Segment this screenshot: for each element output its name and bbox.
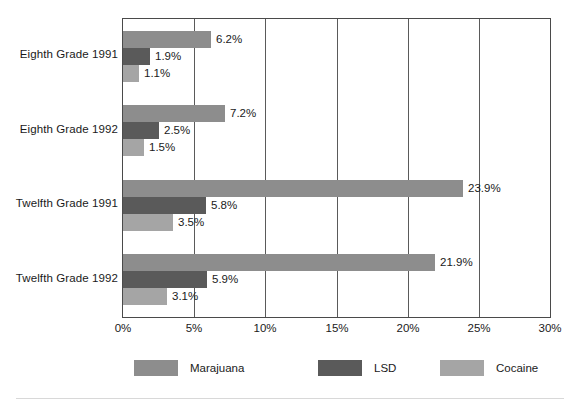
bar-lsd-eighth-grade-1992 <box>123 122 159 139</box>
bar-marajuana-twelfth-grade-1991 <box>123 180 463 197</box>
legend-swatch-cocaine <box>440 360 484 376</box>
bar-value-label: 23.9% <box>463 180 501 197</box>
footer-divider <box>16 398 564 399</box>
bar-marajuana-twelfth-grade-1992 <box>123 254 435 271</box>
x-tick-30: 30% <box>530 322 570 334</box>
legend-swatch-lsd <box>318 360 362 376</box>
x-axis-tick-labels: 0%5%10%15%20%25%30% <box>0 322 574 338</box>
x-tick-25: 25% <box>459 322 499 334</box>
legend-swatch-marajuana <box>134 360 178 376</box>
bar-cocaine-eighth-grade-1992 <box>123 139 144 156</box>
bar-cocaine-twelfth-grade-1992 <box>123 288 167 305</box>
category-label-eighth-grade-1992: Eighth Grade 1992 <box>3 123 118 135</box>
bar-value-label: 1.5% <box>144 139 175 156</box>
x-tick-15: 15% <box>317 322 357 334</box>
legend-label-marajuana: Marajuana <box>190 358 244 380</box>
bar-cocaine-twelfth-grade-1991 <box>123 214 173 231</box>
category-label-twelfth-grade-1992: Twelfth Grade 1992 <box>3 272 118 284</box>
legend-label-lsd: LSD <box>374 358 396 380</box>
bar-value-label: 1.1% <box>139 65 170 82</box>
bar-value-label: 21.9% <box>435 254 473 271</box>
bar-lsd-twelfth-grade-1992 <box>123 271 207 288</box>
legend-label-cocaine: Cocaine <box>496 358 538 380</box>
bar-value-label: 7.2% <box>225 105 256 122</box>
x-tick-0: 0% <box>103 322 143 334</box>
bar-value-label: 2.5% <box>159 122 190 139</box>
x-tick-5: 5% <box>174 322 214 334</box>
bar-value-label: 5.9% <box>207 271 238 288</box>
bar-value-label: 1.9% <box>150 48 181 65</box>
category-label-twelfth-grade-1991: Twelfth Grade 1991 <box>3 197 118 209</box>
bar-value-label: 3.5% <box>173 214 204 231</box>
x-tick-20: 20% <box>388 322 428 334</box>
category-axis-labels: Eighth Grade 1991Eighth Grade 1992Twelft… <box>0 18 118 318</box>
bar-lsd-twelfth-grade-1991 <box>123 197 206 214</box>
bar-value-label: 3.1% <box>167 288 198 305</box>
chart-legend: MarajuanaLSDCocaine <box>0 358 574 384</box>
bar-marajuana-eighth-grade-1992 <box>123 105 225 122</box>
bar-lsd-eighth-grade-1991 <box>123 48 150 65</box>
bar-marajuana-eighth-grade-1991 <box>123 31 211 48</box>
bar-chart-figure: Eighth Grade 1991Eighth Grade 1992Twelft… <box>0 0 574 409</box>
bar-value-label: 5.8% <box>206 197 237 214</box>
bar-value-label: 6.2% <box>211 31 242 48</box>
bar-cocaine-eighth-grade-1991 <box>123 65 139 82</box>
category-label-eighth-grade-1991: Eighth Grade 1991 <box>3 48 118 60</box>
x-tick-10: 10% <box>245 322 285 334</box>
bars-layer: 6.2%1.9%1.1%7.2%2.5%1.5%23.9%5.8%3.5%21.… <box>123 19 550 317</box>
